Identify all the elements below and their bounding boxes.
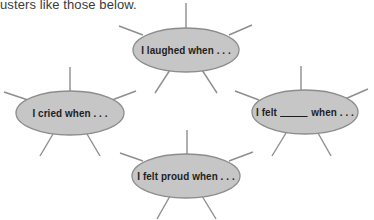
spoke-lower-right — [202, 196, 216, 219]
spoke-lower-left — [155, 70, 170, 93]
spoke-upper-left — [120, 153, 143, 161]
spoke-upper-left — [235, 91, 259, 100]
spoke-lower-left — [272, 133, 286, 156]
cluster-diagram: usters like those below. — [0, 0, 374, 220]
spoke-upper-left — [4, 92, 28, 100]
spoke-lower-right — [87, 134, 100, 156]
spoke-lower-right — [318, 133, 331, 156]
label-felt-blank-suffix: when . . . — [311, 106, 354, 118]
spoke-upper-right — [345, 89, 368, 99]
spoke-upper-left — [119, 26, 143, 35]
spoke-lower-right — [202, 70, 217, 93]
spoke-lower-left — [40, 134, 53, 156]
label-felt-proud: I felt proud when . . . — [137, 170, 235, 182]
spoke-upper-right — [112, 91, 136, 100]
label-felt-blank-prefix: I felt — [256, 106, 277, 118]
label-cried: I cried when . . . — [32, 107, 107, 119]
label-felt-blank: I feltwhen . . . — [256, 106, 354, 118]
spoke-upper-right — [229, 25, 252, 35]
label-laughed: I laughed when . . . — [141, 44, 231, 56]
spoke-lower-left — [157, 196, 170, 219]
spoke-upper-right — [229, 152, 253, 161]
blank-line — [280, 116, 308, 117]
